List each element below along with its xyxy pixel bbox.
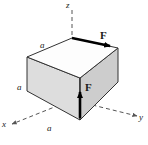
dimension-label-left: a bbox=[17, 83, 22, 92]
mechanics-figure: z y x a a a F F bbox=[0, 0, 148, 145]
force-label-front: F bbox=[85, 82, 92, 93]
force-label-top: F bbox=[100, 30, 107, 41]
axis-label-z: z bbox=[66, 1, 70, 10]
cube-diagram-canvas bbox=[0, 0, 148, 145]
cube-body bbox=[27, 38, 118, 120]
axis-label-x: x bbox=[2, 120, 6, 129]
dimension-label-bottom: a bbox=[47, 124, 52, 133]
axis-label-y: y bbox=[139, 113, 143, 122]
dimension-label-top: a bbox=[40, 41, 45, 50]
